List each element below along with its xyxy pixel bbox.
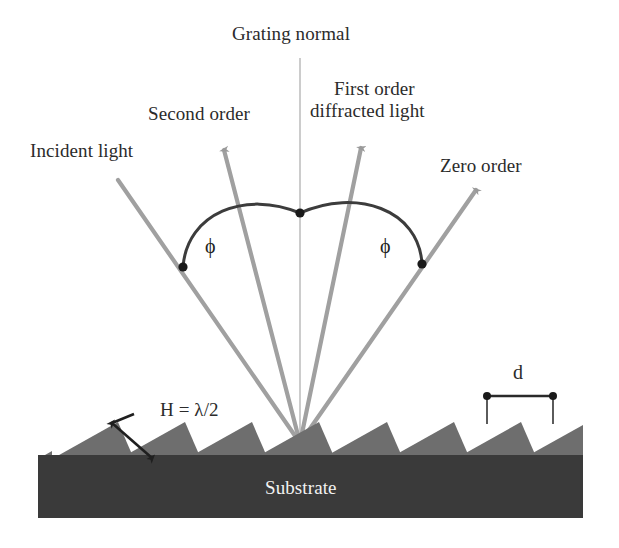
label-incident-light: Incident light (30, 140, 133, 161)
label-grating-normal: Grating normal (232, 23, 350, 44)
groove-tooth (522, 425, 583, 459)
arc-dot-right (417, 259, 426, 268)
groove-tooth (388, 422, 470, 459)
grating-grooves (38, 422, 583, 459)
label-first-order-line1: First order (334, 78, 415, 99)
arc-dot-left (178, 262, 187, 271)
label-phi-left: ϕ (205, 236, 216, 257)
groove-tooth (321, 422, 403, 459)
label-groove-height: H = λ/2 (160, 399, 219, 420)
spacing-dot-right (549, 392, 557, 400)
label-substrate: Substrate (265, 477, 337, 498)
label-zero-order: Zero order (440, 155, 522, 176)
groove-tooth (52, 422, 134, 459)
spacing-dot-left (483, 392, 491, 400)
groove-tooth (455, 422, 537, 459)
second-order-ray (224, 150, 300, 443)
diagram-canvas (0, 0, 619, 548)
groove-tooth (186, 422, 268, 459)
label-phi-right: ϕ (380, 236, 391, 257)
groove-spacing-marker (483, 392, 557, 424)
phi-right-arc (300, 203, 422, 264)
label-first-order-line2: diffracted light (310, 100, 425, 121)
grating-diagram: Grating normal Second order First order … (0, 0, 619, 548)
label-second-order: Second order (148, 103, 250, 124)
label-groove-spacing: d (513, 362, 523, 383)
arc-dot-center (295, 208, 304, 217)
